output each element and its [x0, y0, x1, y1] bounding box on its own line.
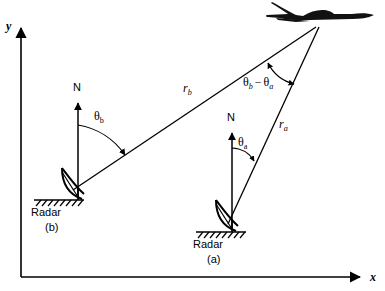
angle-arc-theta-a	[232, 148, 254, 161]
theta-a-subscript: a	[244, 142, 248, 151]
radar-b-name-label: Radar	[31, 207, 61, 218]
radar-b-id-label: (b)	[45, 222, 58, 233]
x-axis-label: x	[370, 271, 376, 283]
radar-a-name-label: Radar	[193, 239, 223, 250]
theta-a-label: θa	[238, 136, 247, 148]
theta-b-symbol: θ	[94, 109, 100, 123]
theta-b-subscript: b	[100, 116, 104, 125]
range-line-rb	[73, 27, 316, 190]
theta-difference-label: θb−θa	[243, 76, 273, 88]
range-ra-label: ra	[279, 118, 288, 130]
angle-arc-theta-b	[78, 125, 125, 155]
north-label-b: N	[73, 82, 81, 93]
theta-a-symbol: θ	[238, 135, 244, 149]
aircraft-icon	[266, 2, 374, 22]
north-label-a: N	[227, 112, 235, 123]
y-axis-label: y	[6, 20, 11, 32]
radar-station-a	[196, 200, 246, 238]
theta-difference-second-subscript: a	[269, 82, 273, 91]
theta-difference-first-subscript: b	[249, 82, 253, 91]
radar-triangulation-figure: y x N N Radar (b) Radar (a) θb θa rb ra …	[0, 0, 385, 291]
range-line-ra	[228, 27, 319, 224]
theta-difference-operator: −	[253, 75, 264, 89]
radar-a-id-label: (a)	[207, 254, 220, 265]
radar-station-b	[34, 168, 84, 206]
range-rb-label: rb	[183, 82, 192, 94]
range-rb-subscript: b	[188, 88, 192, 97]
range-ra-subscript: a	[284, 124, 288, 133]
theta-b-label: θb	[94, 110, 104, 122]
